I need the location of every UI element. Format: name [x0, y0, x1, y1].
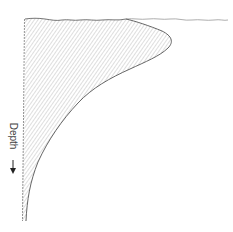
hatched-profile-area — [22, 18, 171, 221]
depth-axis-label: Depth — [8, 123, 19, 150]
depth-profile-diagram — [0, 0, 233, 232]
depth-arrow-icon — [10, 160, 16, 174]
water-surface-line — [126, 19, 228, 21]
